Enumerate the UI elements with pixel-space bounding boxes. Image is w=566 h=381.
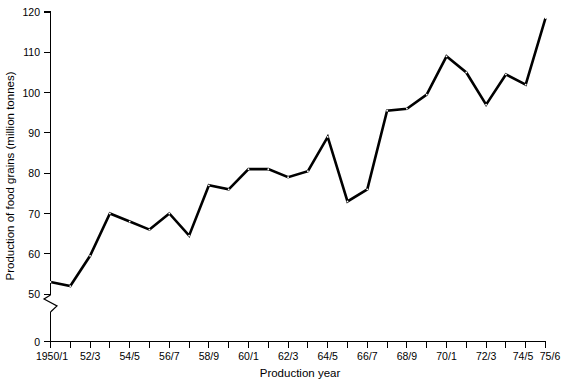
x-tick-label-66-7: 66/7	[357, 350, 378, 362]
x-axis-tick-labels: 1950/1 52/3 54/5 56/7 58/9 60/1 62/3 64/…	[36, 350, 560, 362]
data-point	[366, 188, 368, 190]
data-point	[465, 72, 467, 74]
x-tick-label-75-6: 75/6	[540, 350, 561, 362]
data-point	[505, 74, 507, 76]
data-point	[109, 213, 111, 215]
x-tick-label-58-9: 58/9	[199, 350, 220, 362]
data-point	[446, 55, 448, 57]
data-point	[545, 17, 547, 19]
y-tick-label-0: 0	[34, 336, 40, 348]
x-tick-label-62-3: 62/3	[278, 350, 299, 362]
y-tick-label-100: 100	[22, 87, 40, 99]
x-tick-label-52-3: 52/3	[80, 350, 101, 362]
x-axis-ticks	[51, 342, 546, 349]
y-tick-label-50: 50	[28, 288, 40, 300]
data-series-line	[51, 18, 546, 286]
y-tick-label-120: 120	[22, 6, 40, 18]
data-point	[307, 170, 309, 172]
data-point	[267, 168, 269, 170]
data-point	[386, 110, 388, 112]
y-axis-ticks	[44, 12, 51, 342]
y-tick-label-60: 60	[28, 248, 40, 260]
data-point	[347, 201, 349, 203]
data-point	[89, 255, 91, 257]
x-tick-label-54-5: 54/5	[119, 350, 140, 362]
data-point	[426, 94, 428, 96]
data-point	[485, 104, 487, 106]
data-point	[149, 229, 151, 231]
y-axis-break-icon	[44, 295, 57, 312]
x-tick-label-56-7: 56/7	[159, 350, 180, 362]
data-point	[168, 213, 170, 215]
data-point	[406, 108, 408, 110]
x-tick-label-60-1: 60/1	[238, 350, 259, 362]
x-tick-label-70-1: 70/1	[436, 350, 457, 362]
data-point	[208, 184, 210, 186]
y-tick-label-110: 110	[23, 46, 40, 58]
data-point	[525, 84, 527, 86]
y-tick-label-80: 80	[28, 167, 40, 179]
x-tick-label-68-9: 68/9	[397, 350, 418, 362]
data-point	[287, 176, 289, 178]
data-point	[248, 168, 250, 170]
data-point	[228, 188, 230, 190]
data-point	[69, 285, 71, 287]
data-point	[327, 136, 329, 138]
data-point	[188, 235, 190, 237]
x-tick-label-1950-1: 1950/1	[36, 350, 68, 362]
x-tick-label-72-3: 72/3	[476, 350, 497, 362]
x-axis-title: Production year	[260, 367, 341, 379]
x-tick-label-64-5: 64/5	[317, 350, 338, 362]
y-axis-title: Production of food grains (million tonne…	[4, 71, 16, 280]
y-axis-tick-labels: 120 110 100 90 80 70 60 50 0	[22, 6, 40, 348]
chart-container: 120 110 100 90 80 70 60 50 0	[0, 0, 566, 381]
line-chart: 120 110 100 90 80 70 60 50 0	[0, 0, 566, 381]
y-tick-label-90: 90	[28, 127, 40, 139]
data-point-markers	[50, 17, 547, 287]
y-tick-label-70: 70	[28, 208, 40, 220]
data-point	[50, 281, 52, 283]
data-point	[129, 221, 131, 223]
x-tick-label-74-5: 74/5	[513, 350, 534, 362]
